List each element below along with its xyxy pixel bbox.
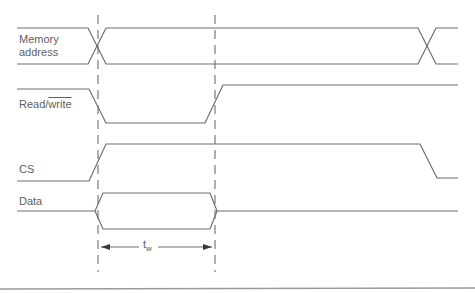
data-waveform [17,193,458,229]
arrowhead-left-icon [101,244,110,250]
memory-address-label-line2: address [19,46,58,58]
tw-label-sub: w [146,244,152,253]
timing-diagram [0,0,475,293]
cs-waveform [17,144,458,181]
tw-label: tw [143,238,152,253]
arrowhead-right-icon [203,244,212,250]
data-label: Data [19,195,42,208]
tw-dimension-arrow [101,244,212,250]
read-write-label: Read/write [19,98,72,111]
read-write-label-overlined: write [48,98,71,110]
read-write-waveform [17,85,458,123]
memory-address-waveform [17,28,458,64]
bottom-rule [0,288,475,289]
read-write-label-prefix: Read/ [19,98,48,110]
cs-label: CS [19,163,34,176]
memory-address-label-line1: Memory [19,33,59,45]
memory-address-label: Memory address [19,33,59,59]
